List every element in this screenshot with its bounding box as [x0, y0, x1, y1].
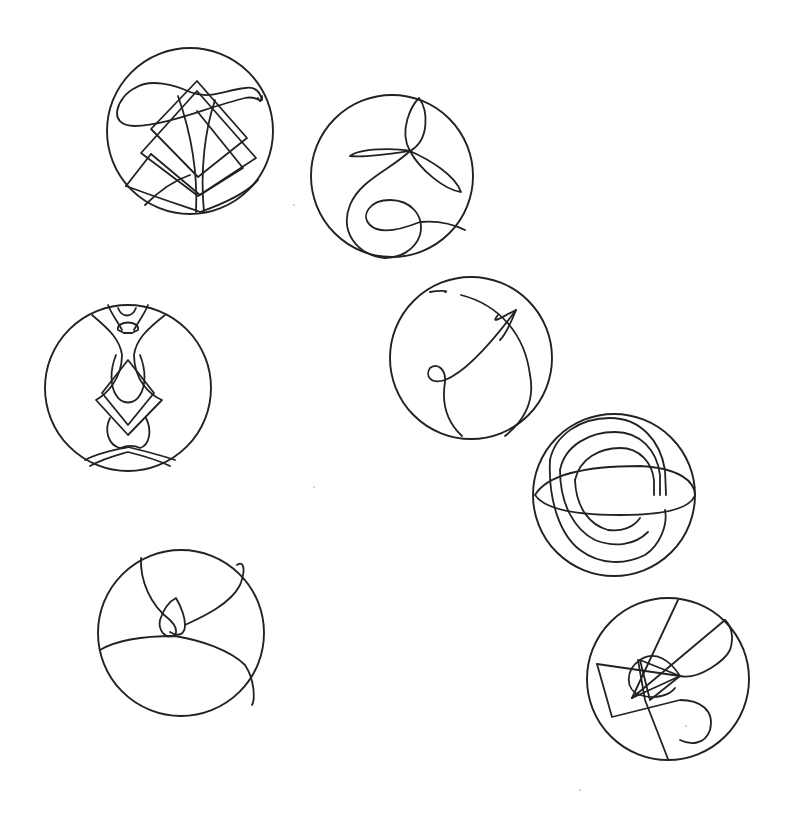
glyph-stroke: [405, 98, 425, 151]
glyph-stroke: [575, 448, 654, 495]
glyph-stroke: [160, 598, 185, 636]
glyph-stroke: [430, 291, 446, 292]
glyph-stroke: [428, 310, 516, 436]
glyph-stroke: [85, 447, 175, 460]
glyph-stroke: [366, 200, 465, 258]
paper-speck: [579, 789, 581, 791]
glyph-trefoil-spiral: [311, 95, 473, 258]
glyph-stroke: [126, 154, 151, 186]
glyph-stroke: [575, 480, 640, 530]
glyph-stroke: [118, 308, 136, 316]
glyph-stroke: [100, 636, 254, 705]
glyph-stroke: [126, 180, 258, 212]
glyph-stroke: [117, 88, 262, 126]
specks: [293, 204, 687, 791]
glyph-stroke: [108, 305, 122, 330]
paper-speck: [313, 486, 315, 488]
glyph-stroke: [203, 100, 215, 212]
glyph-stroke: [560, 470, 648, 544]
glyph-star-swirl: [587, 598, 749, 760]
drawing-canvas: [0, 0, 791, 819]
paper-speck: [685, 725, 687, 727]
glyph-teardrop-knot: [98, 550, 264, 716]
glyph-stroke: [640, 660, 680, 700]
glyph-nested-diamonds: [107, 48, 273, 214]
glyph-stroke: [141, 558, 176, 635]
glyph-orbit-rings: [533, 414, 695, 576]
glyph-mirrored-figure: [45, 305, 211, 471]
circle-outline: [390, 277, 552, 439]
circle-outline: [533, 414, 695, 576]
glyph-stroke: [350, 149, 410, 156]
glyph-stroke: [680, 620, 732, 677]
glyph-stroke: [410, 151, 461, 192]
glyph-arrow-loop: [390, 277, 552, 439]
paper-speck: [293, 204, 295, 206]
glyph-stroke: [185, 564, 244, 625]
glyph-stroke: [107, 418, 149, 448]
glyph-stroke: [347, 151, 410, 258]
glyph-stroke: [535, 466, 695, 515]
